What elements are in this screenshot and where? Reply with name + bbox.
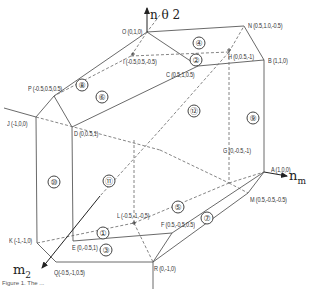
vertex-label-N: N (0.5,1.0,-0.5) <box>248 22 282 29</box>
vertex-label-G: G (0,-0.5,-1) <box>223 147 251 154</box>
vertex-label-J: J (-1,0,0) <box>7 120 27 127</box>
vertex-label-L: L (-0.5,-1,-0.5) <box>117 212 149 219</box>
vertex-label-A: A (1,0,0) <box>271 166 290 173</box>
vertex-label-D: D (0,0.5,1) <box>74 130 98 137</box>
figure-caption: Figure 1. The ... <box>2 280 44 286</box>
vertex-label-H: H (0,0.5,-1) <box>228 53 254 60</box>
region-2: ② <box>190 54 203 67</box>
region-5: ⑤ <box>172 201 185 214</box>
vertex-label-M: M (0.5,-0.5,-0.5) <box>250 196 287 203</box>
region-4: ④ <box>193 37 206 50</box>
vertex-label-Q: Q(-0.5,-1,0.5) <box>54 269 85 276</box>
region-8: ⑧ <box>76 79 89 92</box>
vertex-label-P: P (-0.5,0.5,0.5) <box>28 85 62 92</box>
region-11: ⑪ <box>103 175 116 188</box>
vertex-label-E: E (0,-0.5,1) <box>72 244 98 251</box>
vertex-label-F: F (0.5,-0.5,0.5) <box>161 221 195 228</box>
axis-label-n-theta2: n θ 2 <box>150 4 180 23</box>
region-12: ⑫ <box>188 105 201 118</box>
region-9: ⑨ <box>247 112 260 125</box>
vertex-label-O: O (0,1,0) <box>122 28 142 35</box>
vertex-label-I: I (-0.5,0.5,-0.5) <box>123 58 157 65</box>
polyhedron-diagram <box>0 0 322 289</box>
axis-label-n-m: nm <box>289 168 306 186</box>
region-7: ⑦ <box>201 212 214 225</box>
region-1: ① <box>97 227 110 240</box>
vertex-label-B: B (1,1,0) <box>268 57 288 64</box>
region-6: ⑥ <box>96 91 109 104</box>
axis-label-m2: m2 <box>13 262 31 280</box>
vertex-label-R: R (0,-1,0) <box>154 265 176 272</box>
region-3: ③ <box>100 244 113 257</box>
region-10: ⑩ <box>48 176 61 189</box>
vertex-label-C: C (0.5,1,0.5) <box>166 71 195 78</box>
vertex-label-K: K (-1,-1,0) <box>9 237 32 244</box>
